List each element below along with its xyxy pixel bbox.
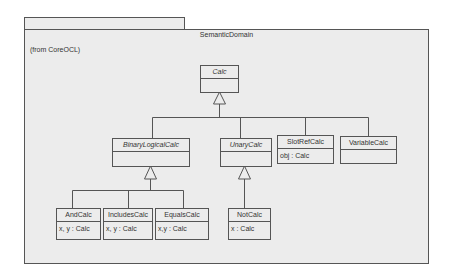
class-name: SlotRefCalc	[278, 136, 333, 149]
class-attributes: obj : Calc	[278, 149, 333, 162]
inheritance-arrow-calc	[214, 92, 226, 104]
class-and-calc[interactable]: AndCalc x, y : Calc	[56, 208, 101, 240]
class-variable-calc[interactable]: VariableCalc	[340, 136, 397, 164]
class-includes-calc[interactable]: IncludesCalc x, y : Calc	[103, 208, 153, 240]
class-name: NotCalc	[229, 209, 270, 222]
class-attributes: x, y : Calc	[104, 222, 152, 235]
class-unary-calc[interactable]: UnaryCalc	[220, 138, 272, 167]
uml-class-diagram: SemanticDomain (from CoreOCL) Calc	[0, 0, 449, 279]
class-name: UnaryCalc	[221, 139, 271, 152]
class-attributes: x,y : Calc	[156, 222, 208, 235]
class-attributes: x : Calc	[229, 222, 270, 235]
class-name: AndCalc	[57, 209, 100, 222]
inheritance-arrow-unary	[239, 166, 251, 179]
class-equals-calc[interactable]: EqualsCalc x,y : Calc	[155, 208, 209, 240]
class-name: Calc	[201, 66, 238, 79]
class-calc[interactable]: Calc	[200, 65, 239, 93]
class-name: EqualsCalc	[156, 209, 208, 222]
class-name: BinaryLogicalCalc	[113, 139, 189, 152]
class-binary-logical-calc[interactable]: BinaryLogicalCalc	[112, 138, 190, 167]
inheritance-arrow-binary	[145, 166, 157, 179]
class-attributes: x, y : Calc	[57, 222, 100, 235]
class-slot-ref-calc[interactable]: SlotRefCalc obj : Calc	[277, 135, 334, 164]
class-name: VariableCalc	[341, 137, 396, 150]
class-name: IncludesCalc	[104, 209, 152, 222]
class-not-calc[interactable]: NotCalc x : Calc	[228, 208, 271, 240]
